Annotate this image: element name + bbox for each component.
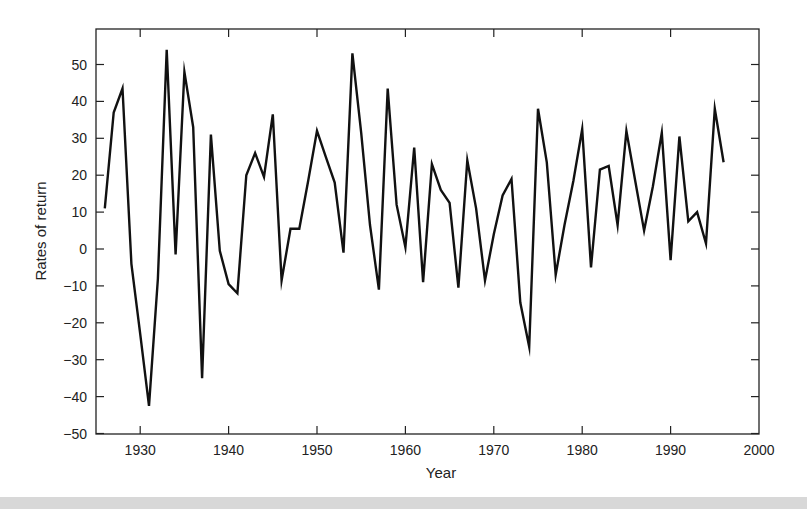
y-tick-label: 0: [79, 241, 87, 257]
y-tick-label: −30: [63, 352, 87, 368]
x-tick-label: 1960: [390, 442, 421, 458]
y-tick-label: 10: [71, 204, 87, 220]
y-axis-title: Rates of return: [32, 181, 49, 280]
x-tick-label: 1930: [125, 442, 156, 458]
y-tick-label: 40: [71, 93, 87, 109]
returns-line: [105, 50, 724, 406]
line-chart: 50403020100−10−20−30−40−50 1930194019501…: [0, 0, 807, 509]
x-tick-label: 1990: [655, 442, 686, 458]
y-tick-label: −10: [63, 278, 87, 294]
y-tick-label: −40: [63, 389, 87, 405]
bottom-strip: [0, 497, 807, 509]
x-tick-label: 1980: [567, 442, 598, 458]
y-tick-label: −50: [63, 426, 87, 442]
y-tick-label: −20: [63, 315, 87, 331]
x-tick-label: 1970: [478, 442, 509, 458]
y-tick-label: 20: [71, 167, 87, 183]
y-axis-ticks: 50403020100−10−20−30−40−50: [63, 57, 759, 442]
y-tick-label: 50: [71, 57, 87, 73]
x-tick-label: 1940: [213, 442, 244, 458]
x-axis-title: Year: [426, 464, 456, 481]
x-tick-label: 1950: [301, 442, 332, 458]
y-tick-label: 30: [71, 130, 87, 146]
x-axis-ticks: 19301940195019601970198019902000: [125, 29, 775, 458]
x-tick-label: 2000: [743, 442, 774, 458]
